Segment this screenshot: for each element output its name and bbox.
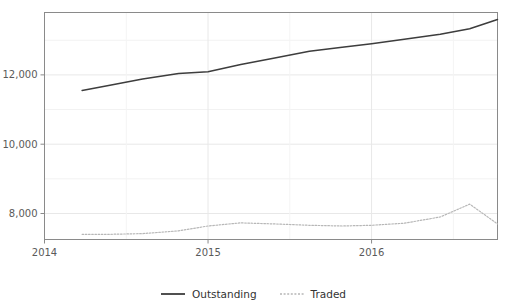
x-tick-label: 2015 [195, 247, 220, 258]
x-tick-label: 2014 [32, 247, 57, 258]
legend-label-outstanding: Outstanding [192, 289, 257, 300]
legend-item-traded[interactable]: Traded [279, 289, 346, 300]
y-tick-label: 8,000 [9, 208, 38, 219]
x-tick-label: 2016 [359, 247, 384, 258]
plot-frame [45, 13, 498, 240]
y-tick-label: 10,000 [3, 139, 38, 150]
legend-item-outstanding[interactable]: Outstanding [160, 289, 257, 300]
chart-plot: 8,00010,00012,000201420152016 [0, 0, 506, 305]
legend-swatch-outstanding [160, 290, 186, 298]
chart-legend: Outstanding Traded [0, 289, 506, 300]
plot-border [45, 13, 498, 240]
chart-container: 8,00010,00012,000201420152016 Outstandin… [0, 0, 506, 305]
tick-labels: 8,00010,00012,000201420152016 [3, 69, 385, 257]
y-tick-label: 12,000 [3, 69, 38, 80]
legend-swatch-traded [279, 290, 305, 298]
legend-label-traded: Traded [311, 289, 346, 300]
axis-ticks [41, 75, 372, 244]
grid-lines [45, 13, 498, 240]
